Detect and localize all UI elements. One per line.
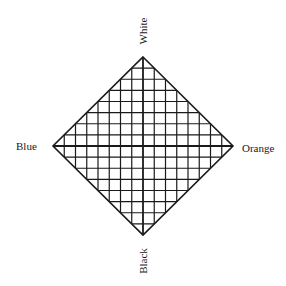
label-black: Black xyxy=(137,248,149,274)
label-white: White xyxy=(137,18,149,45)
label-blue: Blue xyxy=(16,140,37,152)
label-orange: Orange xyxy=(242,142,274,154)
crosshatch-grid xyxy=(53,57,233,235)
